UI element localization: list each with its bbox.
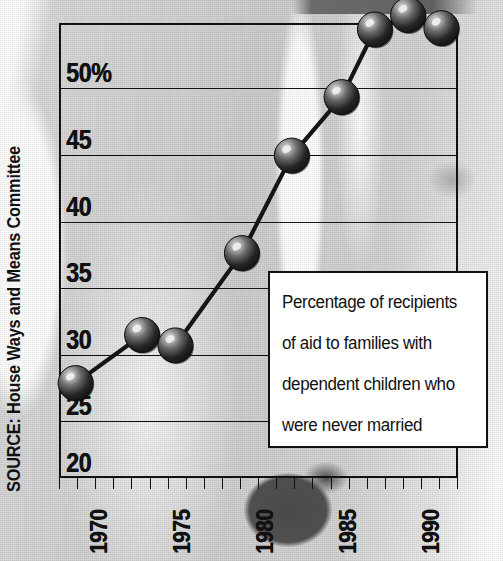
x-axis-label-1990: 1990: [418, 510, 445, 554]
gridline-40: [59, 222, 458, 223]
caption-line-4: were never married: [282, 405, 470, 446]
x-axis-tick: [331, 478, 332, 489]
x-axis-label-1985: 1985: [335, 510, 362, 554]
gridline-50: [59, 88, 458, 89]
y-axis-label-35: 35: [66, 260, 91, 287]
x-axis-tick: [421, 478, 422, 489]
x-axis-tick: [95, 478, 96, 489]
x-axis-tick: [258, 478, 259, 489]
y-axis-label-25: 25: [66, 393, 91, 420]
x-axis-tick: [349, 478, 350, 489]
chart-figure: 50%454035302520 19701975198019851990 Per…: [0, 0, 503, 561]
x-axis-label-1975: 1975: [169, 510, 196, 554]
x-axis-tick: [312, 478, 313, 489]
background-smudge-top: [0, 0, 503, 14]
x-axis-tick: [294, 478, 295, 489]
gridline-45: [59, 155, 458, 156]
x-axis-tick: [59, 478, 60, 489]
x-axis-label-1970: 1970: [86, 510, 113, 554]
x-axis-tick: [367, 478, 368, 489]
caption-line-3: dependent children who: [282, 364, 470, 405]
source-note: SOURCE: House Ways and Means Committee: [4, 146, 25, 492]
caption-line-1: Percentage of recipients: [282, 282, 470, 323]
x-axis-tick: [385, 478, 386, 489]
y-axis-label-20: 20: [66, 450, 91, 477]
x-axis-tick: [131, 478, 132, 489]
x-axis-tick: [276, 478, 277, 489]
x-axis-tick: [113, 478, 114, 489]
y-axis-label-30: 30: [66, 327, 91, 354]
x-axis-tick: [77, 478, 78, 489]
y-axis-label-40: 40: [66, 194, 91, 221]
x-axis-tick: [240, 478, 241, 489]
x-axis-tick: [222, 478, 223, 489]
x-axis-tick: [457, 478, 458, 489]
x-axis-tick: [403, 478, 404, 489]
y-axis-label-45: 45: [66, 127, 91, 154]
x-axis-tick: [186, 478, 187, 489]
y-axis-label-50: 50%: [66, 60, 111, 87]
x-axis-tick: [150, 478, 151, 489]
x-axis-label-1980: 1980: [252, 510, 279, 554]
caption-line-2: of aid to families with: [282, 323, 470, 364]
x-axis-tick: [168, 478, 169, 489]
caption-box: Percentage of recipients of aid to famil…: [268, 271, 488, 448]
x-axis-tick: [204, 478, 205, 489]
x-axis-tick: [439, 478, 440, 489]
